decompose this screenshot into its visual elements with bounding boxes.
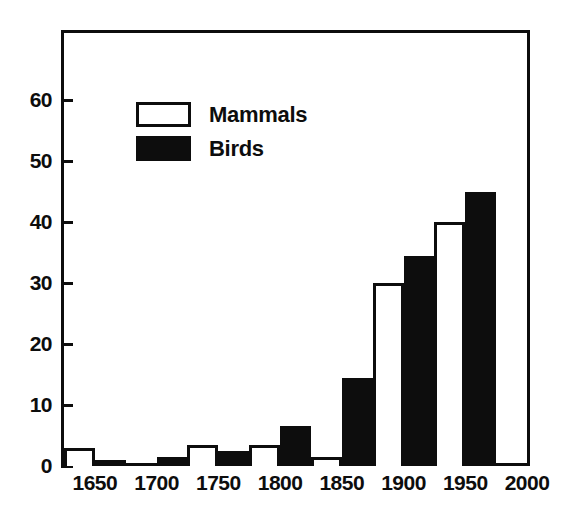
y-tick-50 (61, 160, 73, 163)
x-tick-label-1950: 1950 (443, 472, 488, 493)
bar-birds-1700 (157, 457, 188, 466)
y-tick-40 (61, 221, 73, 224)
y-tick-30 (61, 282, 73, 285)
bar-birds-1800 (280, 426, 311, 466)
y-tick-60 (61, 99, 73, 102)
y-tick-label-0: 0 (10, 455, 52, 476)
x-tick-label-1900: 1900 (381, 472, 426, 493)
bar-mammals-1625 (64, 448, 95, 466)
bar-birds-1650 (95, 460, 126, 466)
x-tick-label-1800: 1800 (258, 472, 303, 493)
y-tick-label-50: 50 (10, 150, 52, 171)
bars-layer (64, 33, 527, 466)
x-tick-label-1700: 1700 (134, 472, 179, 493)
y-tick-label-10: 10 (10, 394, 52, 415)
legend-swatch-birds-icon (136, 136, 191, 161)
x-tick-label-2000: 2000 (505, 472, 550, 493)
legend-swatch-mammals-icon (136, 102, 191, 127)
bar-mammals-1775 (249, 445, 280, 466)
y-tick-label-20: 20 (10, 333, 52, 354)
bar-birds-1750 (218, 451, 249, 466)
legend-item-mammals: Mammals (136, 102, 307, 127)
x-tick-label-1750: 1750 (196, 472, 241, 493)
x-tick-label-1850: 1850 (319, 472, 364, 493)
legend-item-birds: Birds (136, 136, 307, 161)
bar-mammals-1725 (187, 445, 218, 466)
legend-label-mammals: Mammals (209, 104, 307, 126)
bar-birds-1950 (465, 192, 496, 467)
y-tick-10 (61, 404, 73, 407)
y-tick-label-30: 30 (10, 272, 52, 293)
bar-birds-1850 (342, 378, 373, 466)
bar-mammals-1925 (434, 222, 465, 466)
plot-area (64, 33, 527, 466)
chart-legend: Mammals Birds (136, 102, 307, 170)
legend-label-birds: Birds (209, 138, 264, 160)
bar-mammals-1825 (311, 457, 342, 466)
bar-mammals-1675 (126, 463, 157, 466)
extinction-bar-chart: 0102030405060 16501700175018001850190019… (0, 0, 576, 516)
x-tick-label-1650: 1650 (73, 472, 118, 493)
y-tick-label-60: 60 (10, 89, 52, 110)
y-tick-20 (61, 343, 73, 346)
bar-mammals-1875 (373, 283, 404, 466)
bar-birds-1900 (404, 256, 435, 466)
y-tick-label-40: 40 (10, 211, 52, 232)
